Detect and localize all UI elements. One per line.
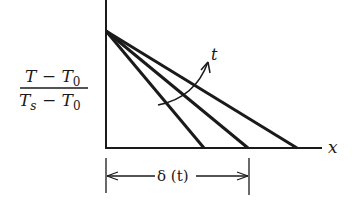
delta-dimension: δ (t) — [106, 158, 249, 195]
y-label-numerator: T − T — [25, 66, 74, 86]
profile-line-3 — [106, 31, 297, 148]
time-label: t — [211, 45, 218, 64]
svg-text:T − T0: T − T0 — [25, 66, 80, 89]
profile-line-2 — [106, 31, 248, 148]
y-axis-label: T − T0 Ts − T0 — [19, 66, 88, 113]
temperature-profile-diagram: t x T − T0 Ts − T0 δ (t) — [0, 0, 357, 208]
y-label-numerator-sub: 0 — [73, 75, 81, 89]
x-axis-label: x — [328, 137, 338, 157]
delta-label: δ (t) — [157, 167, 189, 185]
svg-text:Ts − T0: Ts − T0 — [19, 90, 81, 113]
profile-lines — [106, 31, 297, 148]
